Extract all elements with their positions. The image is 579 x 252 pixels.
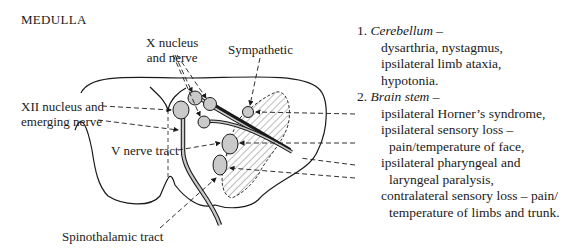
spinothalamic-nucleus xyxy=(213,155,227,175)
sympathetic-nucleus xyxy=(243,107,254,118)
cerebellum-item: dysarthria, nystagmus, xyxy=(357,40,560,57)
v-nucleus xyxy=(222,134,238,154)
label-spinothalamic-tract: Spinothalamic tract xyxy=(62,229,163,244)
brain-stem-item: ipsilateral Horner’s syndrome, xyxy=(357,106,560,123)
x-nucleus-2 xyxy=(204,98,217,111)
label-xii-nucleus: XII nucleus and emerging nerve xyxy=(21,99,104,129)
brain-stem-item: ipsilateral sensory loss – xyxy=(357,122,560,139)
cerebellum-item: hypotonia. xyxy=(357,73,560,90)
brain-stem-item: ipsilateral pharyngeal and xyxy=(357,155,560,172)
findings-list: 1. Cerebellum – dysarthria, nystagmus, i… xyxy=(357,23,560,221)
brain-stem-item: pain/temperature of face, xyxy=(357,139,560,156)
brain-stem-item: temperature of limbs and trunk. xyxy=(357,205,560,222)
brain-stem-item: contralateral sensory loss – pain/ xyxy=(357,188,560,205)
xii-nucleus xyxy=(173,101,189,119)
label-sympathetic: Sympathetic xyxy=(228,42,293,57)
label-v-nerve-tract: V nerve tract xyxy=(111,143,179,158)
brain-stem-heading: 2. Brain stem – xyxy=(357,89,560,106)
brain-stem-item: laryngeal paralysis, xyxy=(357,172,560,189)
cerebellum-heading: 1. Cerebellum – xyxy=(357,23,560,40)
x-nucleus-3 xyxy=(198,116,210,128)
label-x-nucleus: X nucleus and nerve xyxy=(146,35,198,65)
cerebellum-item: ipsilateral limb ataxia, xyxy=(357,56,560,73)
